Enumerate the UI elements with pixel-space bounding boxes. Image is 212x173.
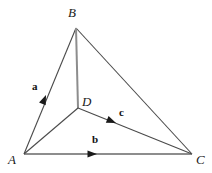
vertex-label-d: D xyxy=(82,95,91,108)
vertex-label-b: B xyxy=(68,6,76,19)
vertex-label-a: A xyxy=(8,153,16,166)
vector-label-b: b xyxy=(92,134,98,145)
vector-triangle-figure: A B C D a b c xyxy=(0,0,212,173)
vector-label-a: a xyxy=(32,81,38,92)
vertex-label-c: C xyxy=(196,153,205,166)
vector-label-c: c xyxy=(119,107,124,118)
